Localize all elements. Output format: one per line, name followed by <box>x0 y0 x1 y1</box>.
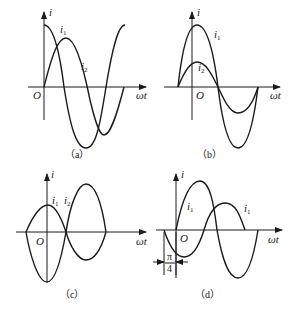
panel-a: i i1 i2 O ωt （a） <box>28 6 148 160</box>
y-label: i <box>181 168 184 180</box>
waveform-figure: i i1 i2 O ωt （a） i i1 i2 O ωt （b） i i1 i… <box>0 0 292 318</box>
caption-c: （c） <box>60 289 84 300</box>
x-label: ωt <box>136 89 148 101</box>
label-i1: i1 <box>52 194 59 208</box>
origin-label: O <box>33 89 41 101</box>
origin-label: O <box>196 89 204 101</box>
y-label: i <box>197 6 200 18</box>
caption-b: （b） <box>197 149 222 160</box>
panel-b: i i1 i2 O ωt （b） <box>164 6 282 160</box>
label-i1-lagging: i1 <box>244 202 251 216</box>
y-label: i <box>49 6 52 18</box>
x-label: ωt <box>136 235 148 247</box>
panel-d: π 4 i i1 i1 O ωt （d） <box>153 168 282 300</box>
y-label: i <box>51 168 54 180</box>
label-i2: i2 <box>64 194 71 208</box>
phase-denominator: 4 <box>167 263 172 274</box>
phase-numerator: π <box>167 251 172 262</box>
caption-a: （a） <box>65 149 89 160</box>
label-i1: i1 <box>214 28 221 42</box>
x-label: ωt <box>270 89 282 101</box>
label-i2: i2 <box>81 60 88 74</box>
label-i1-leading: i1 <box>187 200 194 214</box>
origin-label: O <box>36 235 44 247</box>
caption-d: （d） <box>195 289 220 300</box>
origin-label: O <box>180 232 188 244</box>
label-i1: i1 <box>60 23 67 37</box>
x-label: ωt <box>268 233 280 245</box>
panel-c: i i1 i2 O ωt （c） <box>16 168 148 300</box>
